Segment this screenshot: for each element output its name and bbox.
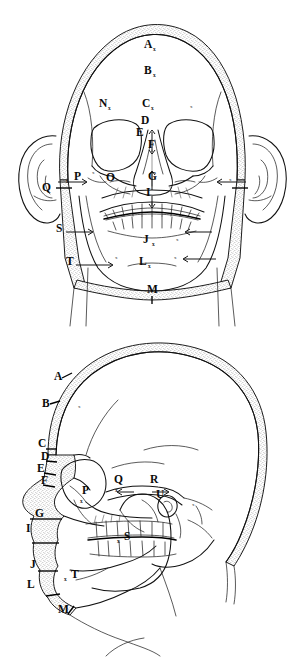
unlabeled-marker: x — [78, 404, 81, 409]
landmark-label-D: D — [41, 450, 49, 462]
landmark-label-Q: Q — [42, 181, 51, 193]
lateral-soft-tissue-band — [23, 343, 267, 615]
landmark-label-D: D — [141, 114, 149, 126]
landmark-label-J: J — [30, 558, 36, 570]
landmark-label-N: N — [99, 97, 108, 109]
landmark-label-I: I — [26, 522, 31, 534]
landmark-label-C: C — [38, 437, 46, 449]
unlabeled-marker: x — [190, 104, 193, 109]
landmark-label-E: E — [136, 126, 144, 138]
landmark-label-F: F — [148, 138, 155, 150]
landmark-marker-J: x — [152, 241, 155, 247]
landmark-label-L: L — [27, 578, 35, 590]
landmark-label-A: A — [144, 38, 153, 50]
landmark-label-P: P — [74, 170, 81, 182]
unlabeled-marker: x — [192, 502, 195, 507]
landmark-label-T: T — [71, 568, 79, 580]
landmark-label-F: F — [41, 474, 48, 486]
landmark-label-B: B — [144, 64, 152, 76]
landmark-label-B: B — [42, 397, 50, 409]
landmark-label-M: M — [147, 283, 158, 295]
landmark-label-S: S — [56, 222, 62, 234]
landmark-label-Q: Q — [114, 473, 123, 485]
landmark-marker-S: x — [117, 538, 120, 544]
landmark-label-A: A — [54, 370, 63, 382]
figure-lateral-skull: A B C D E F G I J L M P x Q x R S x T x … — [0, 330, 300, 663]
frontal-soft-tissue-band — [60, 25, 246, 300]
landmark-marker-P: x — [80, 498, 83, 504]
landmark-label-T: T — [66, 255, 74, 267]
unlabeled-marker: x — [92, 170, 95, 175]
landmark-label-U: U — [156, 488, 165, 500]
landmark-marker-Q: x — [115, 487, 118, 493]
landmark-marker-N: x — [108, 105, 111, 111]
unlabeled-marker: x — [115, 255, 118, 260]
landmark-label-O: O — [106, 171, 115, 183]
landmark-label-P: P — [82, 484, 89, 496]
landmark-label-G: G — [148, 170, 157, 182]
frontal-label-layer: A x B x C x D E F G I J x L x M N x O P … — [42, 38, 232, 295]
landmark-marker-P: x — [66, 178, 69, 184]
landmark-marker-L: x — [148, 263, 151, 269]
landmark-marker-A: x — [153, 46, 156, 52]
landmark-label-I: I — [146, 186, 151, 198]
landmark-label-C: C — [142, 97, 150, 109]
landmark-marker-C: x — [151, 105, 154, 111]
landmark-marker-T: x — [64, 576, 67, 582]
landmark-label-R: R — [150, 473, 159, 485]
landmark-label-G: G — [35, 507, 44, 519]
landmark-label-L: L — [139, 255, 147, 267]
unlabeled-marker: x — [229, 177, 232, 182]
figure-frontal-skull: A x B x C x D E F G I J x L x M N x O P … — [0, 0, 300, 330]
unlabeled-marker: x — [176, 237, 179, 242]
unlabeled-marker: x — [174, 255, 177, 260]
landmark-label-S: S — [124, 530, 130, 542]
landmark-label-E: E — [37, 462, 45, 474]
landmark-label-J: J — [143, 233, 149, 245]
landmark-label-M: M — [58, 603, 69, 615]
landmark-marker-B: x — [153, 72, 156, 78]
